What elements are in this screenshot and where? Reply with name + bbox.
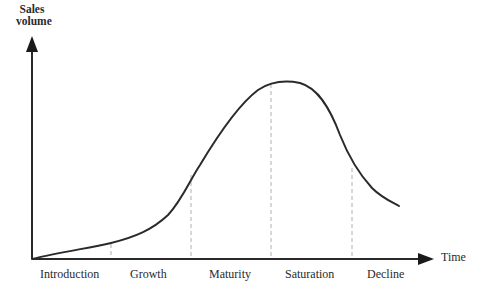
x-axis-arrow-icon	[418, 253, 434, 265]
product-life-cycle-chart: Sales volume Time Introduction Growth Ma…	[0, 0, 483, 293]
stage-label-introduction: Introduction	[40, 268, 99, 280]
stage-label-growth: Growth	[130, 268, 167, 280]
y-axis-arrow-icon	[26, 36, 38, 52]
y-axis-label-line2: volume	[16, 15, 48, 27]
sales-curve	[32, 82, 399, 259]
y-axis-label: Sales volume	[16, 3, 48, 27]
stage-label-decline: Decline	[367, 268, 404, 280]
y-axis-label-line1: Sales	[16, 3, 48, 15]
stage-label-saturation: Saturation	[285, 268, 334, 280]
chart-canvas	[0, 0, 483, 293]
stage-label-maturity: Maturity	[209, 268, 251, 280]
x-axis-label: Time	[441, 251, 466, 263]
